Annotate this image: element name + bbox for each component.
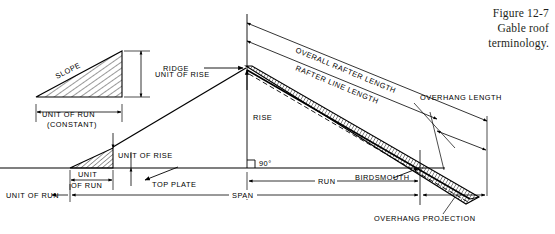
label-overhang-projection: OVERHANG PROJECTION: [374, 214, 475, 223]
label-90-degrees: 90°: [259, 159, 272, 168]
label-ridge: RIDGE: [163, 64, 189, 73]
label-top-plate: TOP PLATE: [152, 180, 196, 189]
caption-line-1: Figure 12-7: [419, 6, 549, 21]
rise-dimension: [247, 14, 255, 168]
label-unit-of-run-left: UNIT OF RUN: [6, 191, 59, 200]
label-birdsmouth: BIRDSMOUTH: [355, 173, 410, 182]
label-unit-small: UNIT: [78, 170, 97, 179]
label-rise: RISE: [253, 113, 272, 122]
label-unit-of-run-constant: UNIT OF RUN: [42, 110, 95, 119]
label-run-top: RUN: [318, 177, 336, 186]
label-overhang-length: OVERHANG LENGTH: [420, 93, 502, 102]
overhang-length-dimension: [414, 103, 486, 150]
caption-line-2: Gable roof: [419, 21, 549, 36]
label-unit-of-run-constant-2: (CONSTANT): [47, 120, 97, 129]
caption-line-3: terminology.: [419, 36, 549, 51]
right-rafter-band: [246, 66, 479, 204]
label-span-top: SPAN: [232, 191, 254, 200]
figure-canvas: SLOPE UNIT OF RISE UNIT OF RUN (CONSTANT…: [0, 0, 555, 234]
label-unit-of-rise-2: UNIT OF RISE: [118, 151, 173, 160]
top-plate-leader: [145, 167, 178, 180]
figure-caption: Figure 12-7 Gable roof terminology.: [419, 6, 549, 51]
label-of-run-small: OF RUN: [71, 181, 102, 190]
left-rafter-line: [113, 68, 246, 147]
